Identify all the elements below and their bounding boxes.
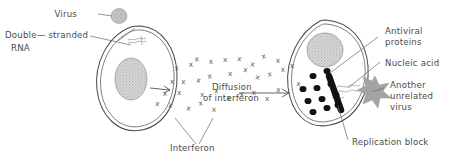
interferon-export-arrow bbox=[150, 86, 170, 93]
label-antiviral-proteins-line2: proteins bbox=[385, 37, 422, 47]
leader-interferon-b bbox=[199, 118, 213, 144]
label-double-stranded-rna-line2: RNA bbox=[11, 43, 30, 53]
label-double-stranded-rna-line1: Double— stranded bbox=[5, 30, 88, 40]
interferon-x-marker: x bbox=[188, 60, 194, 69]
protected-cell-nucleus bbox=[307, 33, 343, 67]
infected-cell-nucleus bbox=[115, 58, 147, 100]
antiviral-protein-dot bbox=[305, 98, 312, 104]
antiviral-protein-dot bbox=[314, 85, 321, 91]
antiviral-protein-dot bbox=[328, 81, 335, 87]
label-unrelated-virus-line3: virus bbox=[390, 102, 412, 112]
antiviral-protein-dot bbox=[324, 105, 331, 111]
interferon-x-marker: x bbox=[196, 75, 203, 85]
interferon-x-marker: x bbox=[255, 72, 262, 82]
interferon-x-marker: x bbox=[250, 59, 257, 69]
label-nucleic-acid: Nucleic acid bbox=[385, 58, 439, 68]
antiviral-protein-dot bbox=[324, 68, 331, 74]
label-replication-block: Replication block bbox=[352, 137, 429, 147]
interferon-x-marker: x bbox=[207, 71, 214, 81]
label-virus: Virus bbox=[54, 9, 77, 19]
leader-dsrna bbox=[90, 36, 131, 45]
leader-dsrna-branch bbox=[118, 28, 135, 41]
interferon-x-marker: x bbox=[290, 61, 295, 70]
interferon-x-marker: x bbox=[275, 56, 281, 65]
label-unrelated-virus-line2: unrelated bbox=[390, 91, 433, 101]
antiviral-protein-dot bbox=[300, 86, 307, 92]
label-diffusion-line2: of interferon bbox=[203, 93, 259, 103]
antiviral-protein-dot bbox=[310, 73, 317, 79]
infected-cell bbox=[97, 26, 177, 131]
antiviral-protein-dot bbox=[333, 92, 340, 98]
interferon-x-marker: x bbox=[194, 54, 201, 64]
label-unrelated-virus-line1: Another bbox=[390, 80, 426, 90]
interferon-x-marker: x bbox=[265, 94, 270, 103]
interferon-x-marker: x bbox=[186, 103, 193, 113]
interferon-diagram: xxxxxxxxxxxxxxxxxxxxxxxxxxxxxxxxxx bbox=[0, 0, 452, 166]
rna-squiggle-icon bbox=[128, 36, 146, 45]
interferon-x-marker: x bbox=[261, 51, 268, 61]
leader-interferon-a bbox=[175, 118, 196, 144]
interferon-x-marker: x bbox=[237, 54, 243, 63]
label-diffusion-line1: Diffusion bbox=[212, 82, 252, 92]
interferon-x-marker: x bbox=[168, 100, 175, 110]
interferon-x-marker: x bbox=[211, 105, 217, 114]
interferon-x-marker: x bbox=[223, 55, 228, 64]
interferon-x-marker: x bbox=[155, 99, 161, 108]
interferon-x-marker: x bbox=[174, 63, 181, 73]
antiviral-protein-dot bbox=[310, 109, 317, 115]
interferon-x-marker: x bbox=[267, 69, 274, 79]
interferon-x-marker: x bbox=[243, 65, 249, 74]
interferon-x-marker: x bbox=[170, 77, 175, 86]
leader-virus bbox=[98, 14, 112, 16]
diagram-canvas: xxxxxxxxxxxxxxxxxxxxxxxxxxxxxxxxxx bbox=[0, 0, 452, 166]
interferon-x-marker: x bbox=[228, 69, 233, 78]
virus-blob-icon bbox=[111, 9, 127, 24]
interferon-x-marker: x bbox=[280, 65, 286, 74]
label-interferon: Interferon bbox=[170, 143, 215, 153]
label-antiviral-proteins-line1: Antiviral bbox=[385, 26, 423, 36]
interferon-x-marker: x bbox=[181, 77, 187, 86]
star-virus-icon bbox=[357, 76, 391, 108]
antiviral-protein-dot bbox=[319, 96, 326, 102]
interferon-x-marker: x bbox=[177, 88, 182, 97]
interferon-x-marker: x bbox=[208, 57, 214, 66]
